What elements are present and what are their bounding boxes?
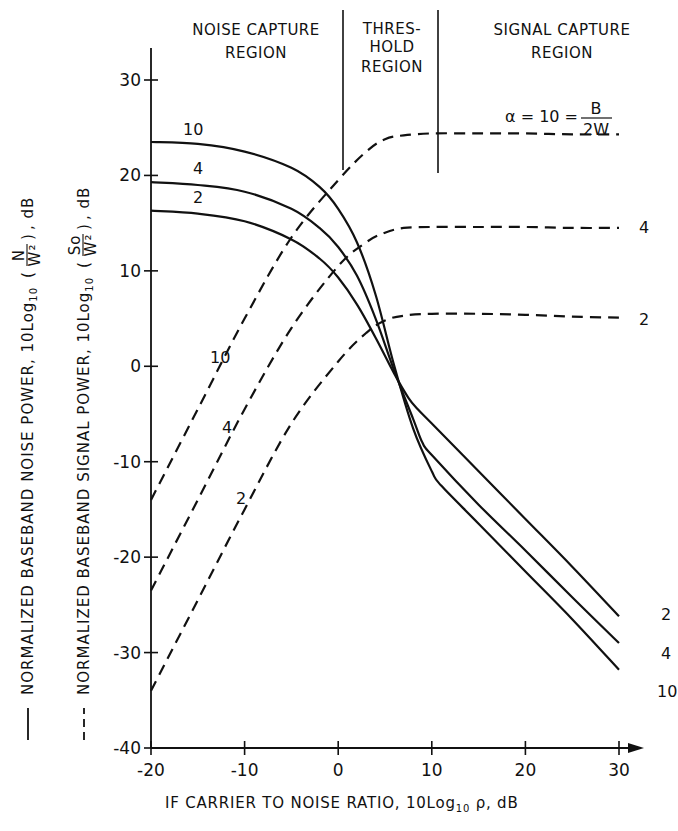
x-tick-label: 30 bbox=[608, 760, 630, 780]
svg-text:NORMALIZED BASEBAND SIGNAL: NORMALIZED BASEBAND SIGNAL POWER, 10Log1… bbox=[75, 277, 95, 695]
signal-power-curve bbox=[151, 227, 619, 591]
svg-text:REGION: REGION bbox=[531, 44, 593, 62]
y-tick-label: 30 bbox=[119, 70, 141, 90]
svg-text:NORMALIZED BASEBAND NOISE P: NORMALIZED BASEBAND NOISE POWER, 10Log10 bbox=[19, 287, 39, 695]
svg-text:, dB: , dB bbox=[75, 187, 93, 220]
x-tick-label: -10 bbox=[231, 760, 259, 780]
curve-labels: 10 4 2 10 4 2 4 2 2 4 10 bbox=[183, 120, 677, 701]
svg-text:(: ( bbox=[75, 261, 93, 268]
signal-label-2: 2 bbox=[236, 489, 246, 508]
x-axis-arrow-icon bbox=[628, 743, 644, 753]
y-tick-label: 10 bbox=[119, 261, 141, 281]
noise-power-curve bbox=[151, 182, 619, 643]
svg-text:, dB: , dB bbox=[19, 197, 37, 230]
svg-text:): ) bbox=[75, 223, 93, 230]
signal-label-4: 4 bbox=[222, 418, 232, 437]
y-tick-label: -40 bbox=[113, 738, 141, 758]
svg-text:): ) bbox=[19, 233, 37, 240]
y-tick-label: -20 bbox=[113, 547, 141, 567]
x-axis-label: IF CARRIER TO NOISE RATIO, 10Log10 ρ, dB bbox=[165, 794, 519, 814]
region-label-noise-capture: NOISE CAPTURE REGION bbox=[192, 21, 320, 62]
signal-label-10: 10 bbox=[210, 348, 230, 367]
region-label-signal-capture: SIGNAL CAPTURE REGION bbox=[494, 21, 631, 62]
svg-text:2W: 2W bbox=[583, 120, 609, 139]
y-tick-label: -30 bbox=[113, 643, 141, 663]
y-axis: -40-30-20-100102030 bbox=[113, 48, 158, 758]
svg-text:REGION: REGION bbox=[225, 44, 287, 62]
svg-text:W²: W² bbox=[26, 244, 44, 267]
plot-series bbox=[151, 133, 619, 690]
y-tick-label: 0 bbox=[130, 356, 141, 376]
x-tick-label: 10 bbox=[421, 760, 443, 780]
svg-text:(: ( bbox=[19, 271, 37, 278]
y-axis-label-dashed: NORMALIZED BASEBAND SIGNAL POWER, 10Log1… bbox=[66, 187, 100, 740]
noise-label-2: 2 bbox=[193, 188, 203, 207]
svg-text:SIGNAL CAPTURE: SIGNAL CAPTURE bbox=[494, 21, 631, 39]
svg-text:W²: W² bbox=[82, 234, 100, 257]
svg-text:REGION: REGION bbox=[361, 58, 423, 76]
x-tick-label: 0 bbox=[333, 760, 344, 780]
y-tick-label: -10 bbox=[113, 452, 141, 472]
svg-text:HOLD: HOLD bbox=[370, 38, 415, 56]
noise-end-label-2: 2 bbox=[661, 605, 671, 624]
alpha-annotation: α = 10 = B 2W bbox=[505, 99, 612, 139]
noise-label-4: 4 bbox=[193, 159, 203, 178]
noise-label-10: 10 bbox=[183, 120, 203, 139]
noise-power-curve bbox=[151, 142, 619, 670]
noise-end-label-4: 4 bbox=[661, 644, 671, 663]
x-axis: -20-100102030 bbox=[137, 741, 644, 780]
svg-text:NOISE CAPTURE: NOISE CAPTURE bbox=[192, 21, 320, 39]
noise-end-label-10: 10 bbox=[657, 682, 677, 701]
region-label-threshold: THRES- HOLD REGION bbox=[361, 20, 423, 76]
y-tick-label: 20 bbox=[119, 165, 141, 185]
signal-end-label-2: 2 bbox=[639, 310, 649, 329]
svg-text:THRES-: THRES- bbox=[362, 20, 421, 38]
svg-text:α = 10 =: α = 10 = bbox=[505, 107, 578, 126]
chart-figure: NOISE CAPTURE REGION THRES- HOLD REGION … bbox=[0, 0, 678, 831]
x-tick-label: 20 bbox=[515, 760, 537, 780]
y-axis-label-solid: NORMALIZED BASEBAND NOISE POWER, 10Log10… bbox=[10, 197, 44, 740]
x-tick-label: -20 bbox=[137, 760, 165, 780]
signal-end-label-4: 4 bbox=[639, 218, 649, 237]
svg-text:B: B bbox=[591, 99, 602, 118]
signal-power-curve bbox=[151, 314, 619, 691]
